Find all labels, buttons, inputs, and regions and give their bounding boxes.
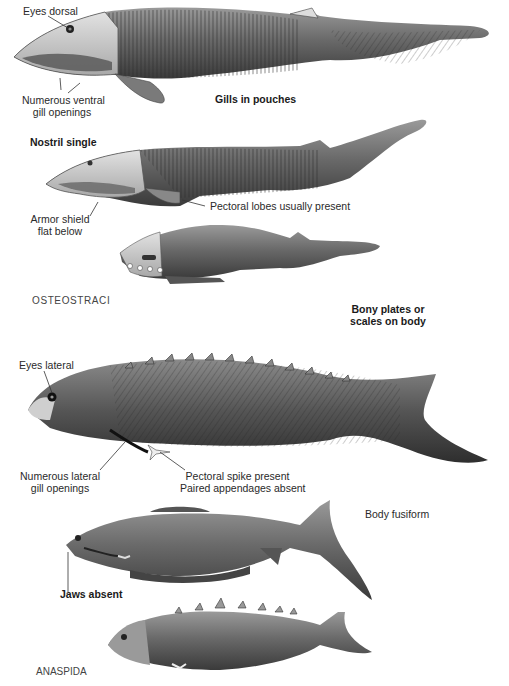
- pectoral-spike-label: Pectoral spike present Paired appendages…: [180, 470, 295, 494]
- lateral-gill-line-2: gill openings: [20, 482, 100, 494]
- jaws-absent-label: Jaws absent: [60, 588, 122, 600]
- gills-in-pouches-label: Gills in pouches: [215, 93, 296, 105]
- armor-shield-label: Armor shield flat below: [30, 213, 90, 237]
- bony-plates-label: Bony plates or scales on body: [350, 303, 426, 327]
- armor-shield-line-1: Armor shield: [30, 213, 90, 225]
- pectoral-spike-line: Pectoral spike present: [180, 470, 295, 482]
- lateral-gill-line-1: Numerous lateral: [20, 470, 100, 482]
- eyes-lateral-label: Eyes lateral: [19, 359, 74, 371]
- body-fusiform-label: Body fusiform: [365, 508, 429, 520]
- eyes-dorsal-label: Eyes dorsal: [23, 5, 78, 17]
- osteostracan-2-drawing: [46, 120, 426, 207]
- anaspid-1-drawing: [28, 353, 488, 463]
- ventral-gill-line-1: Numerous ventral: [22, 94, 102, 106]
- armor-shield-line-2: flat below: [30, 225, 90, 237]
- group-label-anaspida: ANASPIDA: [36, 666, 87, 677]
- anaspid-2-drawing: [66, 500, 372, 600]
- bony-plates-line-1: Bony plates or: [350, 303, 426, 315]
- nostril-single-label: Nostril single: [30, 136, 97, 148]
- ventral-gill-line-2: gill openings: [22, 106, 102, 118]
- osteostracan-1-drawing: [14, 8, 489, 104]
- lateral-gill-openings-label: Numerous lateral gill openings: [20, 470, 100, 494]
- osteostracan-3-drawing: [120, 225, 380, 284]
- anaspid-3-drawing: [108, 598, 372, 670]
- ventral-gill-openings-label: Numerous ventral gill openings: [22, 94, 102, 118]
- paired-appendages-line: Paired appendages absent: [180, 482, 295, 494]
- pectoral-lobes-label: Pectoral lobes usually present: [210, 200, 350, 212]
- bony-plates-line-2: scales on body: [350, 315, 426, 327]
- group-label-osteostraci: OSTEOSTRACI: [32, 295, 110, 306]
